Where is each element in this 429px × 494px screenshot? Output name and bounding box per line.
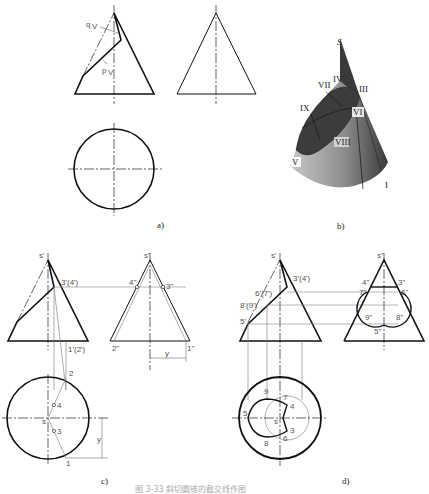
apex-s-dprime-d: s" [377, 251, 384, 260]
apex-s-prime-d: s' [271, 251, 277, 260]
plane-p-label: p [102, 66, 107, 75]
point-1-dprime: 1" [187, 344, 194, 353]
point-s-top-d: s [274, 417, 278, 426]
figure-caption: 图 3-33 斜切圆锥的截交线作图 [135, 484, 246, 494]
point-VI: VI [353, 107, 363, 117]
svg-text:V: V [108, 68, 114, 77]
point-IX: IX [300, 103, 310, 113]
point-5-prime: 5' [240, 317, 246, 326]
panel-a-front-view: q V p V [75, 5, 154, 104]
point-VII: VII [318, 80, 331, 90]
apex-s-dprime: s" [144, 251, 151, 260]
panel-b-label: b) [337, 221, 345, 231]
svg-text:V: V [92, 22, 98, 31]
panel-c: s' 3'(4') 1'(2') s" 4" 3" 2" 1" y [2, 251, 194, 486]
dim-y1-top: y [97, 435, 101, 444]
point-s-top: s [42, 417, 46, 426]
panel-c-label: c) [101, 476, 108, 486]
panel-d: s' 3'(4') 6'(7') 8'(9') 5' s" 4" 3" 7" 6… [232, 251, 424, 486]
point-6-dprime: 6" [401, 288, 408, 297]
point-3-top-d: 3 [290, 426, 295, 435]
point-9-top: 9 [264, 387, 269, 396]
point-8-9-prime: 8'(9') [240, 301, 258, 310]
point-7-dprime: 7" [359, 288, 366, 297]
panel-d-label: d) [342, 476, 350, 486]
point-4-top-d: 4 [290, 402, 295, 411]
point-7-top: 7 [283, 393, 288, 402]
point-S: S [337, 37, 342, 47]
point-VIII: VIII [335, 137, 351, 147]
point-1-top: 1 [66, 459, 71, 468]
point-6-7-prime: 6'(7') [255, 289, 273, 298]
panel-a-top-view [68, 123, 162, 216]
apex-s-prime: s' [39, 251, 45, 260]
panel-c-top-view: 2 4 s 3 1 y [2, 369, 108, 468]
point-9-dprime: 9" [365, 313, 372, 322]
point-1-2-prime: 1'(2') [68, 345, 86, 354]
panel-a: q V p V a) [68, 5, 256, 230]
point-3-4-prime-d: 3'(4') [293, 274, 311, 283]
point-I: I [385, 180, 388, 190]
point-4-dprime-d: 4" [362, 278, 369, 287]
point-2-dprime: 2" [112, 344, 119, 353]
point-3-dprime-d: 3" [398, 278, 405, 287]
point-3-4-prime: 3'(4') [61, 278, 79, 287]
point-8-top: 8 [264, 439, 269, 448]
point-IV: IV [333, 74, 343, 84]
figure-canvas: q V p V a) S IV VII [0, 0, 429, 494]
shaded-cone [290, 38, 388, 189]
panel-d-side-view: s" 4" 3" 7" 6" 9" 8" 5" [344, 251, 424, 350]
point-4-dprime: 4" [129, 278, 136, 287]
point-2-top: 2 [69, 369, 74, 378]
point-8-dprime: 8" [396, 313, 403, 322]
point-5-top: 5 [243, 409, 248, 418]
panel-d-front-view: s' 3'(4') 6'(7') 8'(9') 5' [240, 251, 398, 466]
dim-y1-side: y [165, 349, 169, 358]
panel-b: S IV VII III IX VI VIII V I b) [290, 37, 388, 231]
panel-c-side-view: s" 4" 3" 2" 1" y [110, 251, 194, 370]
point-V: V [292, 157, 299, 167]
panel-c-front-view: s' 3'(4') 1'(2') [8, 251, 186, 390]
panel-a-label: a) [157, 220, 164, 230]
panel-a-side-view [177, 5, 256, 104]
point-4-top: 4 [57, 401, 62, 410]
point-5-dprime: 5" [374, 327, 381, 336]
point-3-top: 3 [57, 427, 62, 436]
point-6-top: 6 [283, 434, 288, 443]
point-III: III [359, 84, 368, 94]
point-3-dprime: 3" [166, 282, 173, 291]
plane-q-label: q [86, 20, 90, 29]
